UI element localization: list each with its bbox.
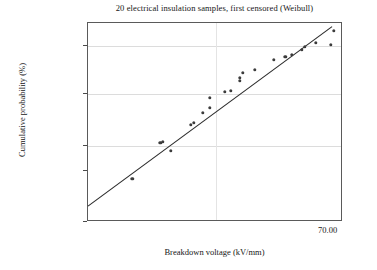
x-axis-tick-label: 70.00 bbox=[318, 225, 337, 235]
plot-area bbox=[87, 22, 342, 221]
x-axis-title: Breakdown voltage (kV/mm) bbox=[87, 247, 342, 257]
y-axis-tick-mark bbox=[83, 221, 87, 222]
weibull-fit-line bbox=[88, 27, 332, 206]
fit-line-svg bbox=[88, 23, 343, 222]
y-axis-title: Cumulative probability (%) bbox=[17, 25, 27, 195]
weibull-probability-plot-figure: 20 electrical insulation samples, first … bbox=[0, 0, 377, 270]
chart-title: 20 electrical insulation samples, first … bbox=[87, 3, 342, 13]
